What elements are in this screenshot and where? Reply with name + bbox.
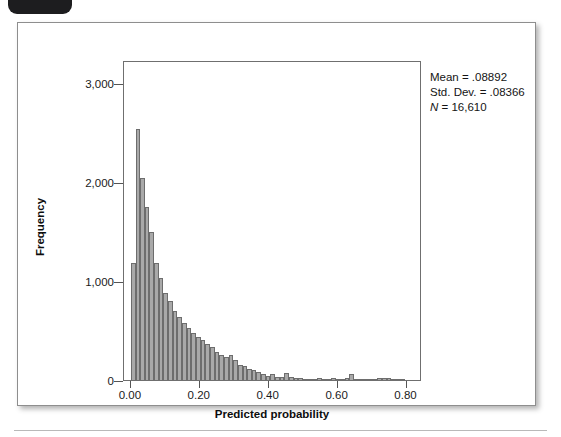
x-axis-tick-label: 0.40: [238, 389, 298, 401]
x-axis-tick: [199, 381, 200, 388]
x-axis-tick-label: 0.80: [376, 389, 436, 401]
x-axis-tick-label: 0.20: [169, 389, 229, 401]
y-axis-tick: [114, 381, 123, 382]
figure-card: Frequency 01,0002,0003,000 0.000.200.400…: [17, 22, 536, 406]
y-axis-tick-label: 2,000: [56, 177, 114, 189]
x-axis-tick: [406, 381, 407, 388]
x-axis-tick-label: 0.60: [307, 389, 367, 401]
plot-area: [123, 61, 421, 381]
y-axis-tick: [114, 84, 123, 85]
stat-mean: Mean = .08892: [430, 70, 525, 85]
y-axis-tick-label: 1,000: [56, 276, 114, 288]
y-axis-tick-label: 3,000: [56, 78, 114, 90]
stat-std-dev: Std. Dev. = .08366: [430, 85, 525, 100]
histogram-bars: [124, 62, 420, 380]
statistics-annotation: Mean = .08892 Std. Dev. = .08366 N = 16,…: [430, 70, 525, 115]
stat-n: N = 16,610: [430, 100, 525, 115]
x-axis-tick-label: 0.00: [100, 389, 160, 401]
x-axis-tick: [337, 381, 338, 388]
x-axis-title: Predicted probability: [123, 408, 421, 420]
stat-n-value: = 16,610: [438, 101, 486, 113]
y-axis-tick: [114, 282, 123, 283]
bottom-divider: [14, 430, 547, 431]
y-axis-tick-label: 0: [56, 375, 114, 387]
y-axis-title: Frequency: [34, 172, 46, 282]
x-axis-tick: [268, 381, 269, 388]
y-axis-tick: [114, 183, 123, 184]
histogram-bar: [401, 379, 406, 380]
corner-tab-badge: [8, 0, 72, 14]
x-axis-tick: [130, 381, 131, 388]
